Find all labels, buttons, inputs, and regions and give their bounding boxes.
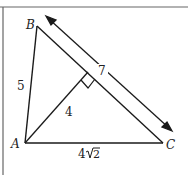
- geometry-figure: B A C 5 7 4 4 2: [0, 0, 188, 175]
- label-length-ab: 5: [17, 79, 25, 93]
- altitude-line: [25, 72, 88, 143]
- svg-text:2: 2: [93, 148, 100, 161]
- label-length-bc: 7: [98, 64, 106, 78]
- triangle-abc: [25, 26, 163, 143]
- label-length-altitude: 4: [65, 105, 73, 119]
- label-vertex-c: C: [166, 138, 175, 152]
- label-vertex-b: B: [25, 18, 35, 32]
- label-vertex-a: A: [10, 137, 20, 151]
- svg-text:4: 4: [78, 147, 86, 161]
- label-length-ac: 4 2: [78, 147, 100, 161]
- right-angle-marker: [81, 79, 95, 88]
